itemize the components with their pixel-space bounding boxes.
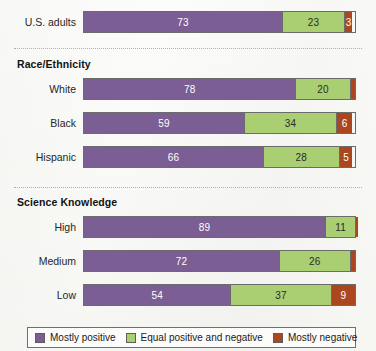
segment-value: 20 [317,84,329,95]
bar-segment-neutral: 28 [263,147,339,167]
segment-value: 59 [158,118,170,129]
bar-segment-neutral: 26 [279,251,349,271]
segment-value: 6 [342,118,348,129]
chart-row: White27820 [0,78,376,100]
segment-value: 72 [176,256,188,267]
bar-segment-negative: 6 [336,113,352,133]
bar-segment-negative: 3 [344,12,352,32]
legend-label: Mostly positive [50,332,116,343]
stacked-bar: 8911 [83,216,356,238]
stacked-bar: 73233 [83,11,356,33]
bar-segment-positive: 78 [84,79,295,99]
segment-value: 34 [285,118,297,129]
stacked-bar: 59346 [83,112,356,134]
bar-segment-negative [350,79,355,99]
segment-value: 3 [346,17,352,28]
segment-value: 54 [151,290,163,301]
section-divider-1 [14,48,362,49]
section-header: Science Knowledge [17,196,117,208]
legend-swatch-neutral-icon [126,333,136,343]
bar-segment-neutral: 34 [244,113,336,133]
segment-value: 89 [199,222,211,233]
bar-segment-positive: 89 [84,217,325,237]
segment-value: 78 [184,84,196,95]
bar-segment-neutral: 23 [282,12,344,32]
segment-value: 66 [168,152,180,163]
row-label: Black [0,112,76,134]
section-divider-2 [14,187,362,188]
stacked-bar: 54379 [83,284,356,306]
legend-label: Mostly negative [288,332,357,343]
bar-segment-negative: 9 [331,285,355,305]
stacked-bar: 7226 [83,250,356,272]
bar-segment-positive: 54 [84,285,230,305]
bar-segment-positive: 59 [84,113,244,133]
legend-label: Equal positive and negative [141,332,263,343]
section-header: Race/Ethnicity [17,58,91,70]
bar-segment-neutral: 20 [295,79,349,99]
bar-segment-positive: 66 [84,147,263,167]
legend-swatch-negative-icon [273,333,283,343]
stacked-bar: 66285 [83,146,356,168]
row-label: Medium [0,250,76,272]
bar-segment-neutral: 37 [230,285,330,305]
segment-value: 28 [296,152,308,163]
stacked-bar: 7820 [83,78,356,100]
segment-value: 11 [335,222,346,233]
legend-item-positive[interactable]: Mostly positive [35,332,116,343]
chart-row: U.S. adults73233 [0,11,376,33]
bar-segment-negative: 5 [339,147,353,167]
segment-value: 73 [177,17,189,28]
chart-row: Low54379 [0,284,376,306]
legend-item-negative[interactable]: Mostly negative [273,332,357,343]
row-label: White [0,78,76,100]
chart-legend: Mostly positiveEqual positive and negati… [27,327,356,348]
row-label: Low [0,284,76,306]
chart-row: Hispanic66285 [0,146,376,168]
chart-row: Medium27226 [0,250,376,272]
segment-value: 5 [343,152,349,163]
segment-value: 23 [308,17,320,28]
segment-value: 37 [275,290,287,301]
bar-segment-neutral: 11 [325,217,355,237]
segment-value: 9 [340,290,346,301]
row-label: High [0,216,76,238]
chart-row: Black59346 [0,112,376,134]
legend-swatch-positive-icon [35,333,45,343]
stacked-bar-chart: U.S. adults73233Race/EthnicityWhite27820… [0,0,376,351]
row-label: Hispanic [0,146,76,168]
bar-segment-negative [355,217,358,237]
bar-segment-positive: 72 [84,251,279,271]
legend-item-neutral[interactable]: Equal positive and negative [126,332,263,343]
bar-segment-negative [350,251,355,271]
row-label: U.S. adults [0,11,76,33]
chart-row: High18911 [0,216,376,238]
segment-value: 26 [309,256,321,267]
bar-segment-positive: 73 [84,12,282,32]
